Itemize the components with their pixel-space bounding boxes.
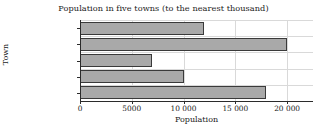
bar-chart-figure: Population in five towns (to the nearest… [0, 0, 327, 133]
bar-backley [80, 70, 184, 83]
y-axis-line [80, 20, 81, 101]
chart-title: Population in five towns (to the nearest… [0, 3, 327, 13]
x-tick-label: 20 000 [274, 104, 300, 113]
bar-castle-hill [80, 38, 287, 51]
y-tick-mark [77, 61, 80, 62]
x-axis-title: Population [80, 115, 313, 124]
bar-faversham [80, 22, 204, 35]
x-tick-label: 10 000 [171, 104, 197, 113]
y-axis-title: Town [1, 31, 10, 79]
x-tick-label: 0 [78, 104, 83, 113]
y-tick-mark [77, 28, 80, 29]
y-tick-mark [77, 44, 80, 45]
bar-berkhampton [80, 86, 266, 99]
x-tick-label: 5000 [122, 104, 141, 113]
bar-brotton [80, 54, 152, 67]
x-tick-label: 15 000 [222, 104, 248, 113]
gridline-vertical [287, 20, 288, 101]
y-tick-mark [77, 93, 80, 94]
x-axis-line [80, 101, 313, 102]
plot-area [80, 20, 313, 101]
y-tick-mark [77, 77, 80, 78]
